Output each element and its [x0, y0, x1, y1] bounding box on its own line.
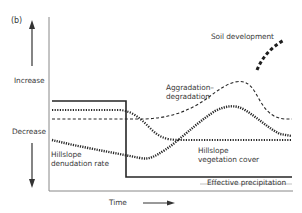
increase-label: Increase	[14, 77, 44, 86]
effective-precipitation-label: Effective precipitation	[207, 179, 286, 188]
soil-development-curve	[257, 40, 284, 70]
time-label: Time	[109, 199, 127, 208]
aggradation-label-line2: degradation	[166, 93, 210, 102]
denudation-rate-curve	[52, 106, 292, 158]
vegetation-cover-curve	[52, 110, 292, 140]
increase-arrow-icon	[29, 20, 35, 66]
decrease-label: Decrease	[12, 128, 46, 137]
soil-development-label: Soil development	[211, 33, 274, 42]
time-arrow-icon	[143, 201, 175, 206]
decrease-arrow-icon	[29, 143, 35, 188]
vegetation-label-line2: vegetation cover	[198, 156, 259, 165]
denudation-label-line2: denudation rate	[51, 160, 109, 169]
panel-label: (b)	[11, 17, 22, 26]
